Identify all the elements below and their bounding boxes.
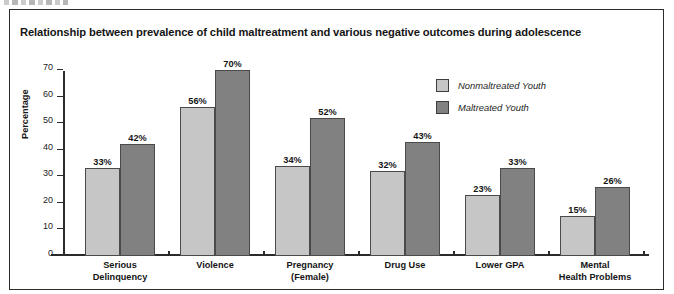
y-tick-label-0: 0 [48, 248, 53, 258]
bar-maltreated: 43% [405, 142, 440, 256]
y-tick-10: 10 [57, 228, 63, 229]
legend-swatch-nonmaltreated [436, 79, 449, 92]
bar-group: 56%70% [180, 70, 250, 256]
bar-value-label: 15% [568, 205, 586, 215]
x-category-label: MentalHealth Problems [525, 260, 665, 283]
x-category-label-line: Mental [525, 260, 665, 272]
y-tick-20: 20 [57, 202, 63, 203]
chart-figure: Relationship between prevalence of child… [0, 0, 674, 294]
bar-nonmaltreated: 23% [465, 195, 500, 256]
y-tick-label-60: 60 [43, 89, 53, 99]
x-tick [168, 251, 170, 256]
y-tick-50: 50 [57, 122, 63, 123]
bar-group: 33%42% [85, 70, 155, 256]
y-tick-label-40: 40 [43, 142, 53, 152]
y-tick-label-50: 50 [43, 115, 53, 125]
bar-value-label: 32% [378, 160, 396, 170]
y-tick-40: 40 [57, 149, 63, 150]
bar-value-label: 52% [318, 107, 336, 117]
x-category-label-line: (Female) [240, 272, 380, 284]
x-tick [643, 251, 645, 256]
bar-nonmaltreated: 32% [370, 171, 405, 256]
bar-value-label: 23% [473, 184, 491, 194]
y-tick-label-10: 10 [43, 221, 53, 231]
y-tick-0: 0 [57, 255, 63, 256]
bar-maltreated: 70% [215, 70, 250, 256]
bar-value-label: 33% [93, 157, 111, 167]
chart-title: Relationship between prevalence of child… [20, 26, 581, 38]
x-tick [548, 251, 550, 256]
legend-swatch-maltreated [436, 101, 449, 114]
x-tick [263, 251, 265, 256]
bar-value-label: 70% [223, 59, 241, 69]
y-tick-label-20: 20 [43, 195, 53, 205]
y-axis-line [63, 71, 65, 256]
bar-value-label: 43% [413, 131, 431, 141]
bar-value-label: 42% [128, 133, 146, 143]
bar-value-label: 56% [188, 96, 206, 106]
y-tick-70: 70 [57, 69, 63, 70]
bar-maltreated: 52% [310, 118, 345, 256]
y-tick-label-70: 70 [43, 62, 53, 72]
bar-nonmaltreated: 34% [275, 166, 310, 256]
y-tick-30: 30 [57, 175, 63, 176]
bar-maltreated: 33% [500, 168, 535, 256]
plot-area: 010203040506070 33%42%56%70%34%52%32%43%… [63, 68, 653, 256]
legend-label-maltreated: Maltreated Youth [458, 102, 529, 113]
bar-value-label: 26% [603, 176, 621, 186]
bar-value-label: 33% [508, 157, 526, 167]
legend-label-nonmaltreated: Nonmaltreated Youth [458, 80, 546, 91]
y-axis-title: Percentage [20, 89, 30, 139]
bar-maltreated: 42% [120, 144, 155, 256]
bar-nonmaltreated: 15% [560, 216, 595, 256]
y-tick-60: 60 [57, 96, 63, 97]
y-tick-label-30: 30 [43, 168, 53, 178]
bar-group: 34%52% [275, 70, 345, 256]
x-tick [358, 251, 360, 256]
bar-maltreated: 26% [595, 187, 630, 256]
bar-group: 32%43% [370, 70, 440, 256]
bar-nonmaltreated: 33% [85, 168, 120, 256]
bar-nonmaltreated: 56% [180, 107, 215, 256]
x-tick [453, 251, 455, 256]
bar-group: 15%26% [560, 70, 630, 256]
x-category-label-line: Delinquency [50, 272, 190, 284]
cropped-header-fragment [4, 0, 68, 5]
bar-group: 23%33% [465, 70, 535, 256]
bar-value-label: 34% [283, 155, 301, 165]
x-category-label-line: Health Problems [525, 272, 665, 284]
